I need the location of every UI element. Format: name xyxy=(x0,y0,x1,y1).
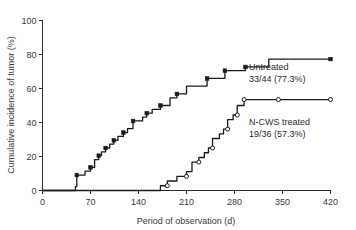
data-point-marker xyxy=(185,174,189,178)
data-point-marker xyxy=(104,146,108,150)
data-point-marker xyxy=(145,111,149,115)
x-tick-label: 420 xyxy=(323,197,338,207)
y-axis-ticks: 020406080100 xyxy=(21,16,42,196)
data-point-marker xyxy=(131,119,135,123)
annotation-ncws: N-CWS treated 19/36 (57.3%) xyxy=(249,117,310,139)
y-tick-label: 60 xyxy=(26,84,36,94)
y-tick-label: 40 xyxy=(26,118,36,128)
data-point-marker xyxy=(112,139,116,143)
x-tick-label: 350 xyxy=(275,197,290,207)
data-point-marker xyxy=(89,166,93,170)
data-point-marker xyxy=(235,113,239,117)
data-point-marker xyxy=(276,98,280,102)
x-tick-label: 0 xyxy=(40,197,45,207)
annotation-untreated-stat: 33/44 (77.3%) xyxy=(249,74,306,84)
chart-container: 020406080100 070140210280350420 Cumulati… xyxy=(0,0,356,230)
data-point-marker xyxy=(226,127,230,131)
annotation-untreated-label: Untreated xyxy=(249,62,289,72)
data-point-marker xyxy=(122,131,126,135)
data-point-marker xyxy=(197,160,201,164)
annotation-ncws-label: N-CWS treated xyxy=(249,117,310,127)
data-point-marker xyxy=(211,146,215,150)
y-axis-title-group: Cumulative incidence of tumor (%) xyxy=(6,36,16,174)
annotation-untreated: Untreated 33/44 (77.3%) xyxy=(249,62,306,84)
x-tick-label: 210 xyxy=(179,197,194,207)
y-axis-title: Cumulative incidence of tumor (%) xyxy=(6,36,16,174)
data-point-marker xyxy=(75,173,79,177)
x-tick-label: 140 xyxy=(131,197,146,207)
y-tick-label: 0 xyxy=(31,186,36,196)
data-point-marker xyxy=(97,154,101,158)
data-point-marker xyxy=(159,104,163,108)
x-axis-title: Period of observation (d) xyxy=(137,216,236,226)
axes-group: 020406080100 070140210280350420 xyxy=(21,16,338,207)
y-tick-label: 100 xyxy=(21,16,36,26)
data-point-marker xyxy=(329,98,333,102)
x-tick-label: 70 xyxy=(85,197,95,207)
data-point-marker xyxy=(223,69,227,73)
y-tick-label: 20 xyxy=(26,152,36,162)
data-point-marker xyxy=(329,57,333,61)
series-ncws-markers xyxy=(165,98,332,188)
data-point-marker xyxy=(244,65,248,69)
x-axis-ticks: 070140210280350420 xyxy=(40,191,338,207)
data-point-marker xyxy=(205,77,209,81)
data-point-marker xyxy=(165,184,169,188)
data-point-marker xyxy=(175,92,179,96)
cumulative-incidence-chart: 020406080100 070140210280350420 Cumulati… xyxy=(0,0,356,230)
annotation-ncws-stat: 19/36 (57.3%) xyxy=(249,129,306,139)
y-tick-label: 80 xyxy=(26,50,36,60)
x-tick-label: 280 xyxy=(227,197,242,207)
data-point-marker xyxy=(242,98,246,102)
